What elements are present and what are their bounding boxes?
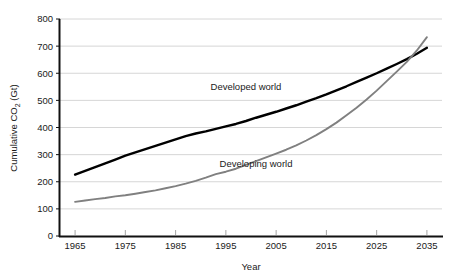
chart-canvas: 0100200300400500600700800 19651975198519… xyxy=(0,0,457,275)
x-tick-label-2035: 2035 xyxy=(416,240,437,251)
series-label-developed-world: Developed world xyxy=(211,81,282,92)
x-tick-label-2005: 2005 xyxy=(266,240,287,251)
x-tick-label-1995: 1995 xyxy=(215,240,236,251)
y-tick-label-0: 0 xyxy=(48,230,53,241)
x-axis-title: Year xyxy=(241,261,260,272)
series-label-developing-world: Developing world xyxy=(220,158,293,169)
y-tick-label-500: 500 xyxy=(37,95,53,106)
y-tick-label-300: 300 xyxy=(37,149,53,160)
y-tick-label-600: 600 xyxy=(37,68,53,79)
y-axis-title-pre: Cumulative CO xyxy=(8,107,19,171)
x-tick-label-1985: 1985 xyxy=(165,240,186,251)
x-tick-label-2015: 2015 xyxy=(316,240,337,251)
y-axis-title: Cumulative CO2 (Gt) xyxy=(8,84,21,171)
y-axis-title-post: (Gt) xyxy=(8,84,19,103)
y-tick-label-700: 700 xyxy=(37,41,53,52)
y-tick-label-400: 400 xyxy=(37,122,53,133)
y-tick-label-100: 100 xyxy=(37,203,53,214)
x-tick-label-1965: 1965 xyxy=(65,240,86,251)
x-tick-label-1975: 1975 xyxy=(115,240,136,251)
y-tick-label-200: 200 xyxy=(37,176,53,187)
co2-cumulative-line-chart: 0100200300400500600700800 19651975198519… xyxy=(0,0,457,275)
y-tick-label-800: 800 xyxy=(37,13,53,24)
chart-background xyxy=(0,0,457,275)
y-axis-title-group: Cumulative CO2 (Gt) xyxy=(8,84,21,171)
x-tick-label-2025: 2025 xyxy=(366,240,387,251)
